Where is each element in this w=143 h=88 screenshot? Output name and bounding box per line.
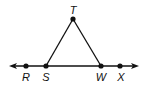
segment-tw — [73, 19, 101, 66]
label-t: T — [70, 4, 78, 16]
point-s — [43, 63, 48, 68]
segment-st — [46, 19, 73, 66]
point-t — [70, 16, 75, 21]
label-x: X — [116, 71, 125, 83]
point-w — [98, 63, 103, 68]
label-w: W — [96, 71, 108, 83]
label-s: S — [42, 71, 50, 83]
triangle-diagram: T R S W X — [0, 0, 143, 88]
label-r: R — [22, 71, 30, 83]
point-x — [117, 63, 122, 68]
point-r — [23, 63, 28, 68]
